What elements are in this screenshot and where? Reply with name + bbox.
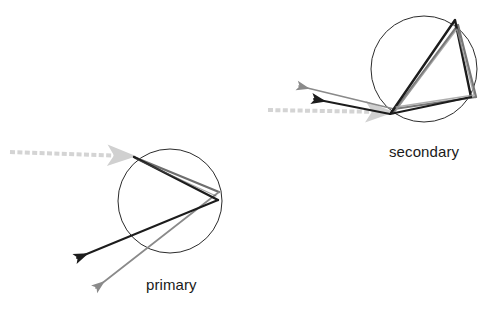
primary-dark-ray-exit	[77, 200, 218, 258]
primary-label: primary	[146, 276, 197, 293]
secondary-label: secondary	[389, 143, 459, 160]
secondary-droplet-group	[268, 16, 477, 122]
primary-incident-ray	[10, 152, 128, 156]
rainbow-ray-diagram: primary secondary	[0, 0, 490, 309]
primary-mid-ray-internal	[136, 159, 216, 196]
primary-droplet-group	[10, 149, 222, 288]
